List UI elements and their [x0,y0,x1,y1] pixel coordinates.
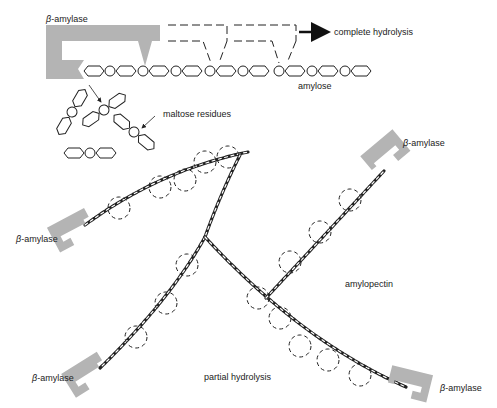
amylase-hydrolysis-diagram: β-amylase complete hydrolysis [0,0,497,408]
enzyme-label-lower-right: β-amylase [439,383,482,393]
amylopectin-label: amylopectin [345,279,393,289]
enzyme-label-upper-left: β-amylase [15,234,58,244]
dashed-enzyme-outlines [168,25,296,63]
maltose-pointer-arrow [142,116,155,128]
amylose-section: β-amylase complete hydrolysis [45,14,414,158]
top-enzyme-label: β-amylase [45,14,88,24]
beta-amylase-enzyme-upper-left [47,208,97,252]
amylopectin-chains [85,152,406,387]
beta-amylase-enzyme-lower-right [386,365,434,402]
enzyme-label-upper-right: β-amylase [402,138,445,148]
amylose-chain [84,66,371,76]
amylopectin-section: β-amylase β-amylase β-amylase β-amylase … [15,129,482,402]
amylose-label: amylose [298,81,332,91]
maltose-residues [55,87,157,158]
cleavage-sites [108,146,371,386]
partial-hydrolysis-label: partial hydrolysis [204,372,272,382]
complete-hydrolysis-label: complete hydrolysis [334,27,414,37]
release-arrow [89,85,101,102]
enzyme-label-lower-left: β-amylase [31,373,74,383]
maltose-residues-label: maltose residues [163,109,232,119]
